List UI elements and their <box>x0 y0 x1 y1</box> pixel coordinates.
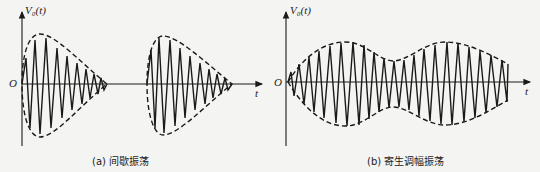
x-axis-label-b: t <box>525 85 528 97</box>
panel-a <box>22 12 262 146</box>
origin-label-b: O <box>274 76 282 88</box>
panel-b <box>286 12 530 146</box>
oscillation-burst-2 <box>147 38 232 133</box>
x-axis-label-a: t <box>255 87 258 99</box>
figure <box>0 0 540 172</box>
y-axis-label-a: V₀(t) <box>25 4 46 16</box>
oscillation-burst-1 <box>22 38 107 134</box>
y-axis-label-b: V₀(t) <box>290 4 311 16</box>
origin-label-a: O <box>9 77 17 89</box>
modulated-oscillation <box>288 42 508 126</box>
caption-a: (a) 间歇振荡 <box>92 153 149 168</box>
caption-b: (b) 寄生调幅振荡 <box>367 153 444 168</box>
